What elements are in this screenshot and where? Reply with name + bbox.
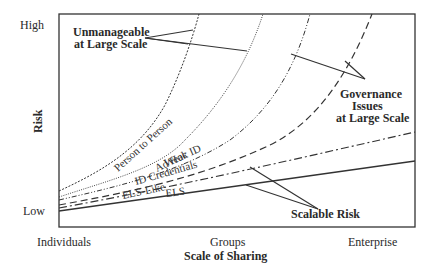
callout-scalable-elslike (250, 167, 318, 209)
curve-els-like (59, 132, 415, 208)
y-tick-high: High (20, 18, 44, 32)
x-tick-individuals: Individuals (37, 235, 91, 249)
annotation-unmanageable-line2: at Large Scale (74, 37, 148, 51)
callout-lines (145, 30, 365, 209)
label-els: ELS (165, 185, 186, 199)
annotation-scalable-risk: Scalable Risk (291, 207, 360, 221)
x-tick-enterprise: Enterprise (348, 235, 397, 249)
callout-governance-idcred (345, 61, 365, 79)
risk-vs-scale-diagram: High Low Risk Individuals Groups Enterpr… (0, 0, 435, 274)
callout-unmanageable-adhoc (145, 38, 247, 51)
diagram-canvas: High Low Risk Individuals Groups Enterpr… (0, 0, 435, 274)
annotation-governance-line3: at Large Scale (336, 111, 410, 125)
y-axis-title: Risk (31, 109, 45, 133)
y-tick-low: Low (23, 204, 45, 218)
callout-unmanageable-p2p (145, 30, 193, 44)
callout-governance-weakid (291, 54, 365, 79)
callout-scalable-els (246, 185, 318, 209)
x-axis-title: Scale of Sharing (184, 249, 267, 263)
curve-els (59, 161, 415, 211)
x-tick-groups: Groups (210, 235, 246, 249)
